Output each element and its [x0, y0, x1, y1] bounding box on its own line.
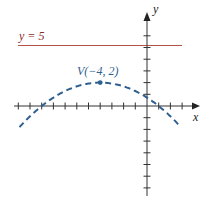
parabola-curve — [20, 83, 180, 128]
x-axis-label: x — [193, 110, 198, 125]
vertex-label: V(−4, 2) — [77, 64, 118, 79]
x-axis-arrow-icon — [192, 103, 200, 110]
axis-ticks — [18, 36, 182, 188]
y-axis-label: y — [153, 2, 158, 17]
y-axis-arrow-icon — [144, 12, 151, 21]
line-label: y = 5 — [19, 29, 44, 44]
vertex-point — [98, 80, 103, 85]
